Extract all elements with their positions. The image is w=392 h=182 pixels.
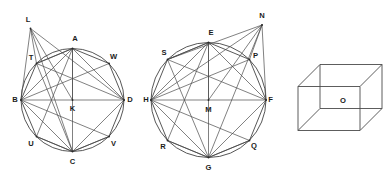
middle-chord-NM xyxy=(209,25,263,100)
left-vertex-label-C: C xyxy=(70,157,76,166)
left-vertex-label-V: V xyxy=(111,139,117,148)
left-vertex-dot-U xyxy=(36,136,38,138)
middle-polygon-edge-FQ xyxy=(250,100,267,141)
box-figure: O xyxy=(298,65,382,131)
geometry-figure-root: BTAWDVCUKL HSEPFQGRMN O xyxy=(0,0,392,182)
left-vertex-dot-D xyxy=(123,99,125,101)
left-chord-CV xyxy=(73,137,110,152)
middle-chord-NH xyxy=(151,25,262,100)
left-vertex-dot-T xyxy=(36,63,38,65)
middle-vertex-label-G: G xyxy=(206,163,212,172)
middle-vertex-dot-E xyxy=(208,42,210,44)
left-vertex-label-K: K xyxy=(70,104,76,113)
left-vertex-dot-W xyxy=(108,63,110,65)
left-chord-CD xyxy=(73,100,125,152)
middle-chord-HQ xyxy=(151,100,250,141)
box-edge-depth-top-right xyxy=(360,65,382,87)
left-vertex-label-D: D xyxy=(127,95,133,104)
left-vertex-dot-L xyxy=(30,28,32,30)
left-vertex-label-W: W xyxy=(110,52,118,61)
middle-chord-GF xyxy=(209,100,267,158)
left-vertex-label-T: T xyxy=(29,53,34,62)
geometry-diagram: BTAWDVCUKL HSEPFQGRMN O xyxy=(0,0,392,182)
box-edge-back-left-depth xyxy=(298,109,320,131)
middle-vertex-label-R: R xyxy=(160,142,166,151)
middle-vertex-dot-S xyxy=(167,59,169,61)
left-vertex-dot-B xyxy=(20,99,22,101)
left-polygon-edge-AW xyxy=(73,49,110,64)
middle-vertex-label-S: S xyxy=(161,48,166,57)
middle-chord-NS xyxy=(168,25,263,60)
middle-vertex-dot-P xyxy=(249,59,251,61)
middle-vertex-dot-F xyxy=(265,99,267,101)
left-vertex-label-A: A xyxy=(72,34,78,43)
middle-vertex-dot-R xyxy=(167,140,169,142)
box-center-label: O xyxy=(340,96,346,105)
box-edge-depth-bottom-right xyxy=(360,109,382,131)
middle-chord-HP xyxy=(151,60,250,101)
middle-vertex-label-E: E xyxy=(208,28,213,37)
middle-vertex-dot-H xyxy=(150,99,152,101)
left-vertex-dot-C xyxy=(72,151,74,153)
left-polygon-edge-DV xyxy=(109,100,124,137)
left-vertex-dot-K xyxy=(72,99,74,101)
middle-chord-HE xyxy=(151,43,209,101)
left-chord-lines xyxy=(21,29,124,152)
middle-vertex-label-M: M xyxy=(205,105,211,114)
middle-chord-NG xyxy=(209,25,263,158)
middle-chord-lines xyxy=(151,25,266,158)
middle-vertex-label-N: N xyxy=(259,11,264,20)
middle-vertex-dot-G xyxy=(208,157,210,159)
middle-vertex-dot-N xyxy=(261,24,263,26)
middle-vertex-label-Q: Q xyxy=(251,141,257,150)
middle-vertex-dot-M xyxy=(208,99,210,101)
left-vertex-dot-A xyxy=(72,48,74,50)
left-vertex-label-L: L xyxy=(26,15,31,24)
left-vertex-label-B: B xyxy=(12,95,18,104)
left-vertex-label-U: U xyxy=(28,139,34,148)
left-vertex-dot-V xyxy=(108,136,110,138)
middle-chord-NF xyxy=(262,25,266,100)
middle-vertex-label-F: F xyxy=(268,95,273,104)
middle-circle-figure: HSEPFQGRMN xyxy=(143,11,273,172)
left-circle-figure: BTAWDVCUKL xyxy=(12,15,133,166)
box-edge-depth-top-left xyxy=(298,65,320,87)
middle-vertex-label-H: H xyxy=(143,95,148,104)
middle-vertex-label-P: P xyxy=(253,51,258,60)
left-chord-LC xyxy=(31,29,73,152)
